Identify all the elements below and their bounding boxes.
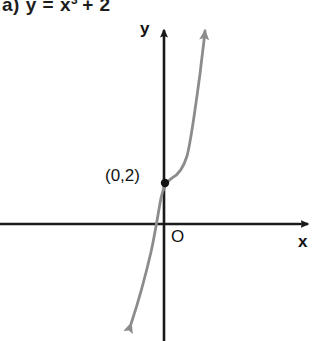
intercept-point-label: (0,2): [105, 166, 140, 186]
y-axis-label: y: [140, 19, 149, 39]
title-prefix: a) y = x: [2, 0, 71, 15]
intercept-dot: [161, 179, 169, 187]
cartesian-plot: [0, 0, 319, 341]
origin-label: O: [171, 227, 184, 247]
title-exponent: 3: [71, 0, 78, 7]
title-suffix: + 2: [82, 0, 110, 15]
cubic-curve: [131, 31, 205, 324]
graph-figure: a) y = x3+ 2 y x O (0,2): [0, 0, 319, 341]
x-axis-label: x: [298, 232, 307, 252]
figure-title: a) y = x3+ 2: [2, 0, 111, 16]
